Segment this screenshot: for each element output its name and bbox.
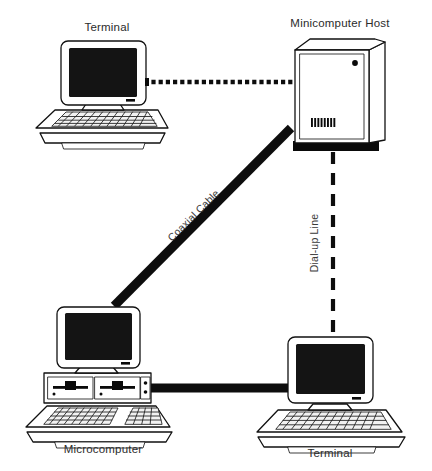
dialup-line-label: Dial-up Line — [308, 214, 320, 272]
link-coaxial-cable — [114, 128, 291, 306]
microcomputer-base-plinth — [27, 432, 172, 442]
microcomputer-floppy-led-left — [53, 393, 56, 396]
coaxial-cable-line — [114, 128, 291, 306]
microcomputer-floppy-latch-right — [112, 381, 123, 390]
node-microcomputer[interactable]: Microcomputer — [26, 307, 172, 455]
terminal-top-power-indicator — [126, 99, 135, 102]
terminal-bottom-base-plinth — [258, 437, 405, 447]
microcomputer-screen — [65, 313, 132, 360]
microcomputer-floppy-latch-left — [65, 381, 76, 390]
coaxial-cable-label-group: Coaxial Cable — [165, 187, 222, 244]
terminal-top-port-nub — [145, 78, 149, 86]
terminal-top-label: Terminal — [84, 21, 129, 33]
terminal-top-base-foot — [62, 143, 145, 149]
microcomputer-label: Microcomputer — [64, 443, 143, 455]
terminal-top-screen — [69, 48, 137, 97]
minicomputer-host-label: Minicomputer Host — [290, 17, 390, 29]
terminal-bottom-power-indicator — [352, 397, 361, 400]
terminal-bottom-monitor-stand — [308, 404, 352, 410]
terminal-bottom-label: Terminal — [307, 447, 352, 459]
coaxial-cable-label: Coaxial Cable — [165, 187, 222, 244]
microcomputer-panel-led-lower — [144, 390, 148, 394]
terminal-bottom-screen — [296, 344, 365, 394]
diagram-canvas: Terminal — [0, 0, 432, 471]
host-right-side-panel — [369, 42, 385, 143]
terminal-top-base-plinth — [40, 133, 165, 143]
host-top-panel — [295, 39, 385, 50]
microcomputer-power-indicator — [121, 362, 130, 365]
node-terminal-top[interactable]: Terminal — [36, 21, 168, 149]
microcomputer-control-panel — [141, 377, 150, 399]
microcomputer-panel-led-upper — [144, 381, 148, 385]
dialup-line-label-group: Dial-up Line — [308, 214, 320, 272]
host-led-indicator — [352, 60, 358, 66]
microcomputer-floppy-led-right — [100, 393, 103, 396]
node-terminal-bottom[interactable]: Terminal — [257, 337, 405, 459]
network-diagram: Terminal — [0, 0, 432, 471]
node-minicomputer-host[interactable]: Minicomputer Host — [290, 17, 390, 151]
